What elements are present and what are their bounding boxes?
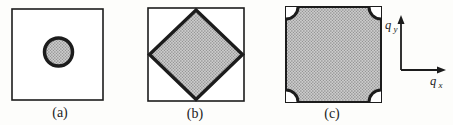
y-axis-label-base: q bbox=[385, 18, 391, 32]
panel-a-label: (a) bbox=[52, 105, 68, 121]
panel-a-fermi-circle bbox=[45, 38, 73, 66]
diagram-svg: (a) (b) (c) bbox=[0, 0, 453, 125]
y-axis-label-sub: y bbox=[392, 24, 397, 34]
panel-c-square bbox=[286, 7, 381, 102]
x-axis-label-base: q bbox=[430, 74, 436, 88]
x-axis-label-sub: x bbox=[437, 80, 442, 90]
panel-b-label: (b) bbox=[187, 106, 204, 122]
panel-c-label: (c) bbox=[324, 106, 340, 122]
figure-canvas: (a) (b) (c) bbox=[0, 0, 453, 125]
